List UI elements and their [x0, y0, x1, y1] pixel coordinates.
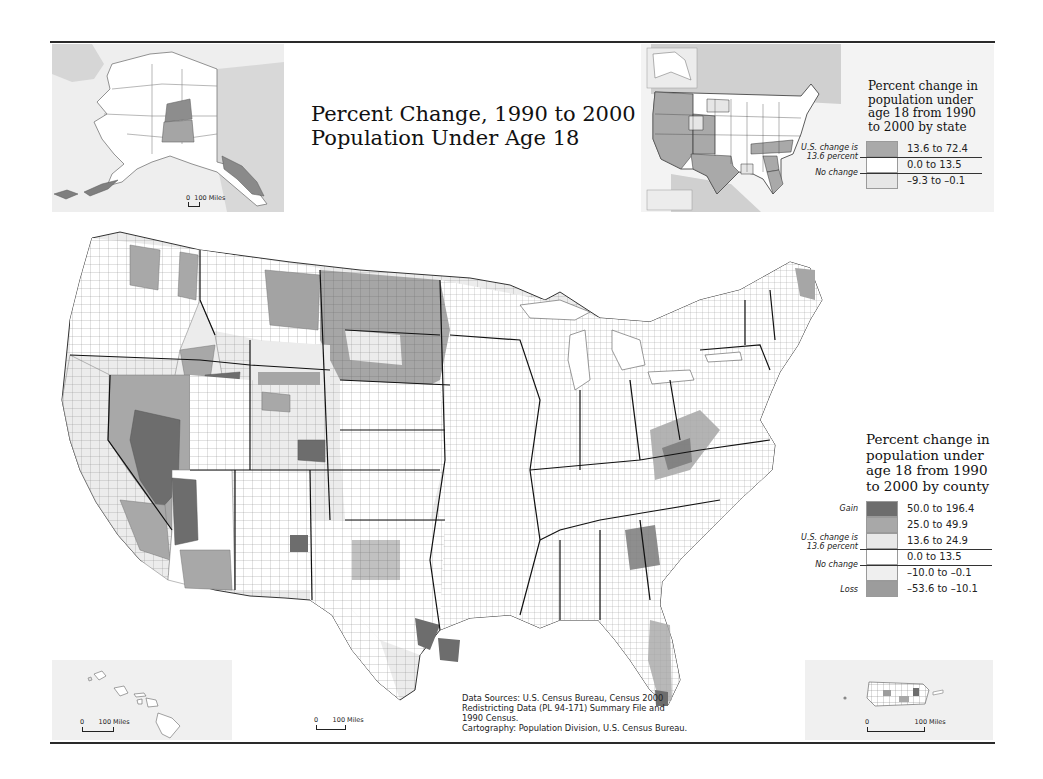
hawaii-inset: 0 100 Miles: [52, 660, 232, 740]
county-class-label-5: –10.0 to –0.1: [907, 567, 972, 578]
county-us-change-line: [860, 549, 992, 550]
hawaii-map: [52, 660, 232, 740]
county-class-label-3: 13.6 to 24.9: [907, 535, 968, 546]
puerto-rico-scale-label: 0 100 Miles: [865, 718, 946, 726]
county-swatch-13-24: [866, 533, 898, 549]
county-no-change-label: No change: [790, 560, 858, 569]
county-no-change-line: [860, 565, 992, 566]
county-class-label-6: –53.6 to –10.1: [907, 583, 978, 594]
county-swatch-0-13: [866, 549, 898, 565]
county-us-change-label: U.S. change is 13.6 percent: [790, 533, 858, 551]
hawaii-scale-label: 0 100 Miles: [80, 718, 130, 726]
county-legend-title: Percent change in population under age 1…: [866, 432, 1006, 494]
conus-scale-label: 0 100 Miles: [314, 716, 364, 724]
puerto-rico-scale-bar: [867, 727, 925, 732]
county-gain-label: Gain: [790, 504, 858, 513]
county-class-label-2: 25.0 to 49.9: [907, 519, 968, 530]
county-class-label-4: 0.0 to 13.5: [907, 551, 962, 562]
county-swatch-neg53-10: [866, 581, 898, 597]
data-sources-credits: Data Sources: U.S. Census Bureau, Census…: [462, 693, 687, 733]
county-swatch-neg10-0: [866, 565, 898, 581]
county-loss-label: Loss: [790, 585, 858, 594]
county-swatch-50-196: [866, 501, 898, 517]
hawaii-scale-bar: [82, 727, 114, 732]
county-class-label-1: 50.0 to 196.4: [907, 503, 974, 514]
county-swatch-25-49: [866, 517, 898, 533]
conus-scale-bar: [316, 725, 346, 730]
puerto-rico-inset: 0 100 Miles: [805, 660, 993, 740]
